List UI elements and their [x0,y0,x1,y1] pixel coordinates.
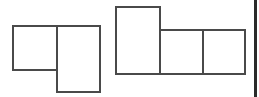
left-tall-rect [56,25,101,93]
left-square [12,25,58,71]
edge-divider-bar [254,0,257,97]
right-tall-rect [115,6,161,75]
right-square-end [202,29,246,75]
right-square-middle [159,29,204,75]
